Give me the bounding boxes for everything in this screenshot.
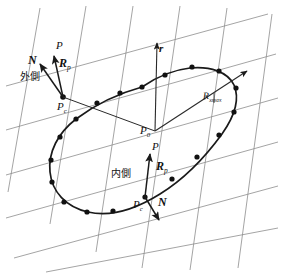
label-pc-outer: Pc [57,101,67,115]
grid-lines [6,6,278,272]
label-rp-inner-sub: p [164,166,168,175]
figure-canvas: 外側 内側 P N Rp Pc r P0 P Rp Pc N Rxmax [0,0,283,276]
label-p0: P0 [140,125,150,139]
label-pc-inner-base: P [133,198,140,210]
label-rp-outer: Rp [59,57,71,72]
label-p0-base: P [140,124,147,136]
vector-rp-inner [145,154,150,197]
label-p0-sub: 0 [147,131,150,138]
label-pc-inner: Pc [133,199,143,213]
label-pc-outer-base: P [57,100,64,112]
label-p-outer: P [56,40,63,51]
label-outer-side: 外側 [20,72,40,82]
label-pc-outer-sub: c [64,107,67,114]
label-rxmax: Rxmax [203,91,222,104]
label-rp-outer-sub: p [67,63,71,72]
label-n-inner: N [158,196,167,208]
label-p-inner: P [152,141,159,152]
label-rp-inner-base: R [156,159,164,173]
label-inner-side: 内側 [111,169,131,179]
label-rp-outer-base: R [59,56,67,70]
label-r-vector: r [159,43,163,54]
label-pc-inner-sub: c [140,205,143,212]
label-rp-inner: Rp [156,160,168,175]
vector-r [155,43,157,131]
label-n-outer: N [28,54,37,66]
label-rxmax-sub: xmax [209,97,221,103]
vector-rxmax [155,71,247,131]
contour-markers [48,64,238,214]
